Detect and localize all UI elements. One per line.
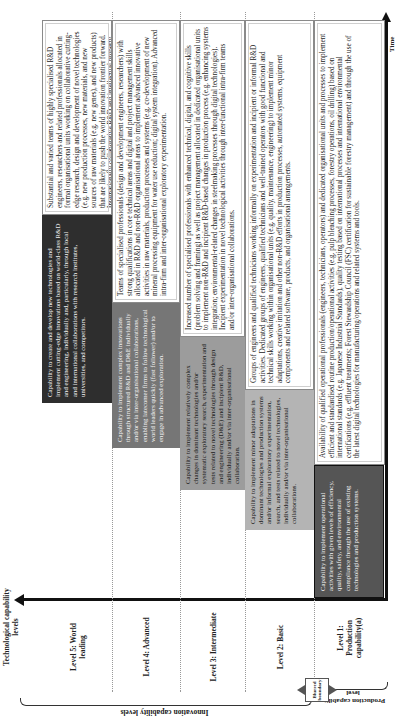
level-2-label: Level 2: Basic (250, 612, 310, 682)
level-5-capability-cell: Capability to create and develop new tec… (42, 215, 112, 403)
level-3-capability-cell: Capability to implement relatively compl… (180, 337, 245, 490)
level-4-label: Level 4: Advanced (116, 612, 176, 682)
level-5-description-cell: Substantial and varied teams of highly s… (42, 20, 112, 215)
x-axis-title: Time (388, 37, 396, 52)
level-2-capability-cell: Capability to implement minor adaptation… (245, 390, 314, 530)
blurred-boundary-box: Blurred boundary (305, 678, 329, 702)
blurred-boundary-label: Blurred boundary (312, 679, 323, 701)
level-3-description-cell: Increased number of specialised professi… (180, 20, 245, 337)
level-4-description-cell: Teams of specialised professionals (desi… (112, 20, 180, 303)
level-4-capability-cell: Capability to implement complex innovati… (112, 303, 180, 448)
level-1-description-cell: Availability of qualified operational pr… (314, 20, 385, 465)
boundary-arrow-down-icon (329, 685, 337, 695)
level-2-description-cell: Groups of engineers and qualified techni… (245, 20, 314, 390)
y-axis-arrow-icon (14, 594, 24, 606)
innovation-bracket-label: Innovation capability levels (55, 708, 275, 717)
level-5-label: Level 5: World leading (48, 612, 108, 682)
level-1-capability-cell: Capability to implement operational acti… (314, 465, 384, 598)
boundary-arrow-up-icon (297, 685, 305, 695)
level-3-label: Level 3: Intermediate (183, 612, 243, 682)
innovation-bracket (20, 698, 312, 706)
y-axis-line (22, 598, 387, 601)
x-axis-line (385, 19, 388, 601)
level-1-label: Level 1: Production capability(a) (318, 608, 380, 668)
